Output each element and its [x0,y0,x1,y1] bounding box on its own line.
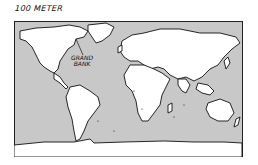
grand-bank-label: GRAND BANK [71,55,93,67]
map-title: 100 METER [15,4,64,13]
world-map [14,21,243,157]
madagascar [168,103,172,113]
british-isles [118,45,122,53]
grand-bank-label-line2: BANK [71,61,93,67]
world-map-svg [14,21,243,157]
antarctica [14,139,242,157]
